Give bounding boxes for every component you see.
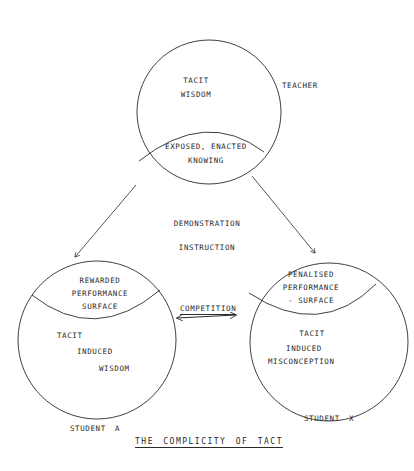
student-x-upper-line-2: PERFORMANCE [281,284,341,292]
student-x-upper-line-1: PENALISED [281,271,341,279]
student-x-lower-line-3: MISCONCEPTION [268,358,334,366]
teacher-lower-line-1: EXPOSED, ENACTED [151,143,261,151]
arrow-to-student-a [75,185,136,257]
student-a-lower-line-2: INDUCED [77,348,113,356]
student-a-lower-line-1: TACIT [57,332,83,340]
arrow-to-student-x [252,176,315,253]
teacher-upper-line-1: TACIT [171,77,221,85]
student-a-role-label: STUDENT A [70,425,120,433]
student-a-lower-line-3: WISDOM [99,365,130,373]
diagram-title: THE COMPLICITY OF TACT [135,437,283,448]
competition-label: COMPETITION [180,305,236,315]
diagram-canvas [0,0,414,471]
teacher-role-label: TEACHER [282,82,318,90]
student-a-upper-line-1: REWARDED [70,277,130,285]
teacher-lower-line-2: KNOWING [171,157,241,165]
instruction-label: INSTRUCTION [167,244,247,252]
student-a-upper-line-3: SURFACE [70,303,130,311]
student-a-upper-line-2: PERFORMANCE [70,290,130,298]
competition-arrow [177,315,236,318]
student-x-upper-line-3: - SURFACE [281,297,341,305]
student-x-lower-line-2: INDUCED [284,345,324,353]
teacher-upper-line-2: WISDOM [171,91,221,99]
student-x-lower-line-1: TACIT [292,330,332,338]
student-x-role-label: STUDENT X [304,415,354,423]
demonstration-label: DEMONSTRATION [167,220,247,228]
